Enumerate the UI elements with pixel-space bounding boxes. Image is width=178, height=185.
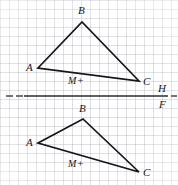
fold-line-label-h: H	[158, 83, 166, 94]
interior-point-top-m-cross: +	[76, 74, 83, 86]
vertex-label-top-c: C	[143, 76, 150, 87]
vertex-label-top-a: A	[26, 62, 33, 73]
top-triangle-outline	[38, 22, 139, 81]
interior-point-bottom-m: M+	[68, 158, 84, 169]
interior-point-top-m: M+	[68, 75, 84, 86]
fold-line-label-f: F	[159, 99, 166, 110]
bottom-triangle-outline	[38, 119, 139, 172]
vertex-label-bottom-a: A	[26, 137, 33, 148]
vertex-label-bottom-c: C	[143, 167, 150, 178]
figure-drawing	[0, 0, 178, 185]
geometry-figure: A B C M+ A B C M+ H F	[0, 0, 178, 185]
vertex-label-top-b: B	[78, 5, 85, 16]
vertex-label-bottom-b: B	[79, 103, 86, 114]
interior-point-bottom-m-cross: +	[76, 157, 83, 169]
